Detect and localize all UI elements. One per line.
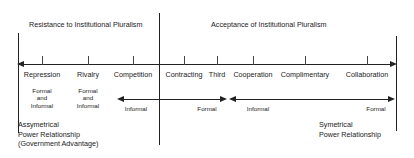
- formality-line-3: Informal: [31, 102, 53, 109]
- informal-formal-span-left-arrowhead: [117, 96, 124, 102]
- formality-line-1: Formal: [31, 87, 53, 94]
- mode-label-informal-left: Informal: [125, 105, 147, 112]
- stage-label-competition: Competition: [114, 71, 152, 79]
- center-divider-line: [159, 13, 160, 145]
- stage-label-complimentary: Complimentary: [281, 71, 329, 79]
- axis-tick-contracting: [184, 56, 185, 65]
- axis-tick-competition: [133, 56, 134, 65]
- main-axis-line: [22, 64, 393, 65]
- header-right-acceptance: Acceptance of Institutional Pluralism: [211, 21, 326, 29]
- main-axis-right-arrowhead: [390, 61, 397, 67]
- informal-formal-span-right-right-arrowhead: [388, 96, 395, 102]
- informal-formal-span-line: [123, 99, 223, 100]
- axis-tick-complimentary: [305, 56, 306, 65]
- mode-label-informal-right: Informal: [247, 105, 269, 112]
- axis-tick-repression: [42, 56, 43, 65]
- header-left-resistance: Resistance to Institutional Pluralism: [29, 21, 142, 29]
- right-boundary-line: [396, 36, 397, 131]
- axis-tick-cooperation: [253, 56, 254, 65]
- left-boundary-line: [18, 33, 19, 133]
- formality-block-repression: Formal and Informal: [31, 87, 53, 109]
- stage-label-cooperation: Cooperation: [233, 71, 272, 79]
- informal-formal-span-right-arrowhead: [220, 96, 227, 102]
- main-axis-left-arrowhead: [17, 61, 24, 67]
- mode-label-formal-center: Formal: [197, 105, 216, 112]
- caption-symmetrical-power: Symetrical Power Relationship: [319, 120, 381, 139]
- informal-formal-span-right-left-arrowhead: [229, 96, 236, 102]
- axis-tick-rivalry: [88, 56, 89, 65]
- stage-label-contracting: Contracting: [166, 71, 203, 79]
- stage-label-repression: Repression: [24, 71, 60, 79]
- caption-asymmetrical-power: Assymetrical Power Relationship (Governm…: [18, 120, 98, 149]
- caption-left-line-2: Power Relationship: [18, 130, 98, 140]
- axis-tick-collaboration: [367, 56, 368, 65]
- stage-label-rivalry: Rivalry: [77, 71, 99, 79]
- mode-label-formal-right: Formal: [366, 105, 385, 112]
- relationship-continuum-diagram: Resistance to Institutional Pluralism Ac…: [0, 0, 414, 158]
- informal-formal-span-line-right: [236, 99, 390, 100]
- stage-label-third: Third: [209, 71, 225, 79]
- formality-line-2: and: [31, 94, 53, 101]
- caption-left-line-3: (Government Advantage): [18, 139, 98, 149]
- caption-right-line-1: Symetrical: [319, 120, 381, 130]
- axis-tick-third: [217, 56, 218, 65]
- formality-line-2: and: [77, 94, 99, 101]
- formality-line-1: Formal: [77, 87, 99, 94]
- caption-right-line-2: Power Relationship: [319, 130, 381, 140]
- caption-left-line-1: Assymetrical: [18, 120, 98, 130]
- formality-line-3: Informal: [77, 102, 99, 109]
- stage-label-collaboration: Collaboration: [346, 71, 388, 79]
- formality-block-rivalry: Formal and Informal: [77, 87, 99, 109]
